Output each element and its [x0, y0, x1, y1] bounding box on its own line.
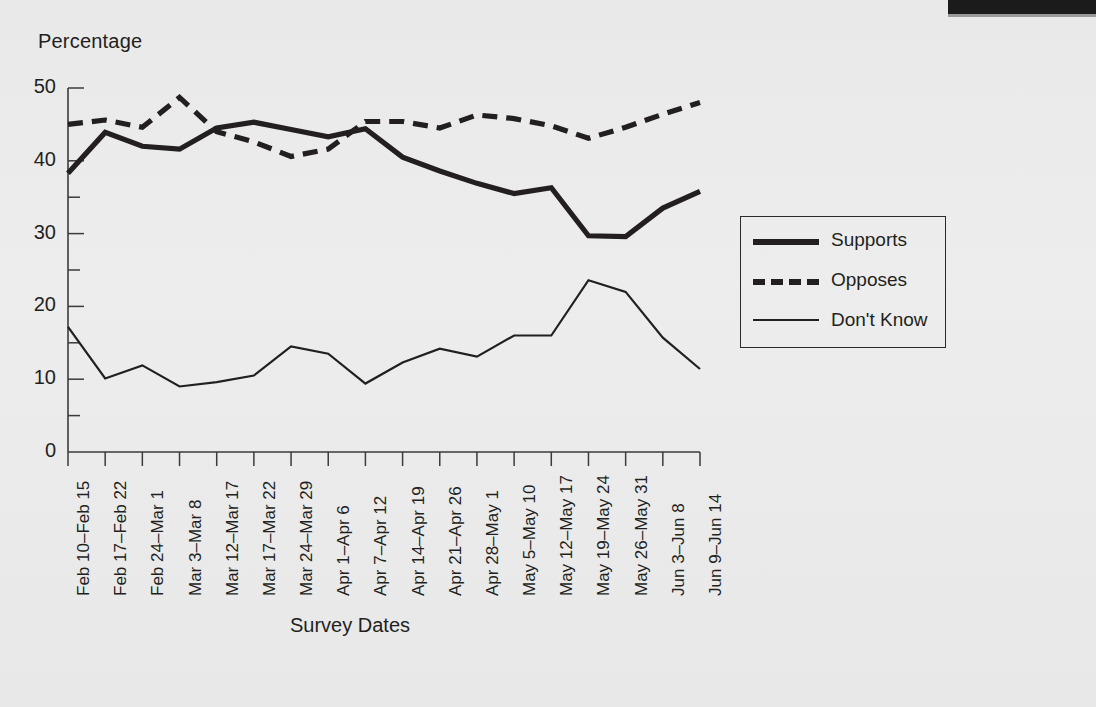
legend-swatch-supports [753, 239, 819, 245]
x-tick-label: Feb 24–Mar 1 [148, 490, 168, 596]
y-tick-label: 30 [16, 221, 56, 244]
plot-canvas [0, 0, 1096, 707]
x-tick-label: Mar 24–Mar 29 [297, 481, 317, 596]
x-tick-label: Apr 14–Apr 19 [409, 486, 429, 596]
x-tick-label: Mar 12–Mar 17 [223, 481, 243, 596]
x-tick-label: May 26–May 31 [632, 475, 652, 596]
x-tick-label: Mar 3–Mar 8 [186, 500, 206, 596]
x-tick-label: Apr 1–Apr 6 [334, 505, 354, 596]
legend-swatch-opposes [753, 279, 819, 285]
legend-label-opposes: Opposes [831, 269, 907, 291]
legend-item: Opposes [753, 267, 939, 297]
x-tick-label: Feb 10–Feb 15 [74, 481, 94, 596]
x-tick-label: May 12–May 17 [557, 475, 577, 596]
series-group [68, 97, 700, 386]
series-line-supports [68, 122, 700, 236]
legend-label-supports: Supports [831, 229, 907, 251]
x-tick-label: May 5–May 10 [520, 485, 540, 597]
line-chart: Percentage 01020304050 Feb 10–Feb 15Feb … [0, 0, 1096, 707]
y-tick-label: 0 [16, 439, 56, 462]
x-tick-label: Feb 17–Feb 22 [111, 481, 131, 596]
y-tick-label: 40 [16, 148, 56, 171]
x-tick-label: Jun 3–Jun 8 [669, 503, 689, 596]
legend-item: Don't Know [753, 307, 939, 337]
x-tick-label: Mar 17–Mar 22 [260, 481, 280, 596]
legend-label-dont-know: Don't Know [831, 309, 928, 331]
page-background: Percentage 01020304050 Feb 10–Feb 15Feb … [0, 0, 1096, 707]
x-tick-label: Apr 21–Apr 26 [446, 486, 466, 596]
y-tick-label: 10 [16, 366, 56, 389]
x-tick-label: Apr 7–Apr 12 [371, 496, 391, 596]
x-tick-label: May 19–May 24 [594, 475, 614, 596]
x-axis-title: Survey Dates [0, 614, 700, 637]
legend-swatch-dont-know [753, 319, 819, 321]
x-tick-label: Apr 28–May 1 [483, 490, 503, 596]
legend-item: Supports [753, 227, 939, 257]
y-tick-label: 50 [16, 75, 56, 98]
x-tick-label: Jun 9–Jun 14 [706, 494, 726, 596]
legend: Supports Opposes Don't Know [740, 216, 946, 348]
series-line-don-t-know [68, 280, 700, 386]
y-tick-label: 20 [16, 293, 56, 316]
